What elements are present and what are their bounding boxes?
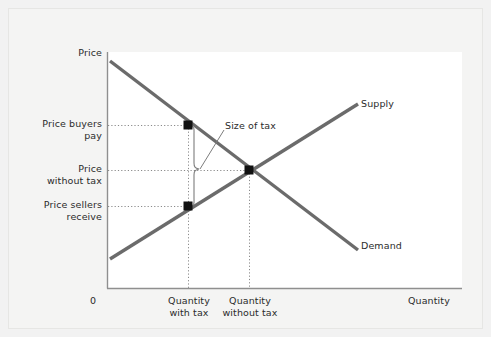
size-of-tax-label: Size of tax bbox=[225, 120, 276, 132]
supply-curve-label: Supply bbox=[361, 98, 394, 110]
y-tick-price-sellers-receive: Price sellers receive bbox=[20, 199, 102, 222]
y-axis-title: Price bbox=[46, 47, 102, 59]
origin-label: 0 bbox=[86, 295, 100, 307]
demand-curve-label: Demand bbox=[361, 240, 402, 252]
y-tick-price-without-tax: Price without tax bbox=[20, 163, 102, 186]
y-tick-price-buyers-pay: Price buyers pay bbox=[20, 118, 102, 141]
tax-incidence-figure: Price Price buyers pay Price without tax… bbox=[0, 0, 491, 337]
point-price-sellers-receive bbox=[184, 202, 193, 211]
point-price-buyers-pay bbox=[184, 121, 193, 130]
x-axis-title: Quantity bbox=[408, 295, 470, 307]
point-price-without-tax bbox=[245, 166, 254, 175]
x-tick-quantity-without-tax: Quantity without tax bbox=[205, 295, 295, 318]
